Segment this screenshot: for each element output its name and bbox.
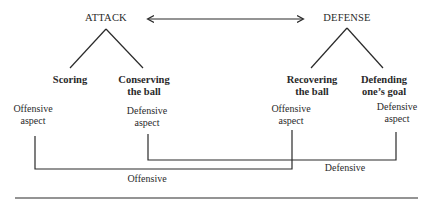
goal-defending-line1: Defending (361, 74, 407, 86)
aspect-recovering-line2: aspect (271, 115, 310, 127)
attack-branch-right (106, 29, 143, 68)
offensive-bracket (35, 130, 292, 169)
root-defense-label: DEFENSE (323, 12, 371, 24)
defensive-bracket (148, 132, 396, 160)
defense-branch-right (347, 28, 383, 68)
attack-branch-left (70, 29, 106, 68)
defense-branch-left (311, 28, 347, 68)
goal-conserving-ball: Conserving the ball (118, 74, 169, 98)
aspect-conserving-line2: aspect (127, 117, 168, 129)
goal-recovering-line1: Recovering (287, 74, 338, 86)
goal-conserving-line2: the ball (118, 86, 169, 98)
aspect-defending-line1: Defensive (377, 101, 418, 113)
goal-recovering-ball: Recovering the ball (287, 74, 338, 98)
aspect-conserving-line1: Defensive (127, 105, 168, 117)
aspect-defending: Defensive aspect (377, 101, 418, 125)
aspect-recovering-line1: Offensive (271, 103, 310, 115)
aspect-defending-line2: aspect (377, 113, 418, 125)
aspect-scoring-line1: Offensive (13, 103, 52, 115)
goal-recovering-line2: the ball (287, 86, 338, 98)
aspect-conserving: Defensive aspect (127, 105, 168, 129)
goal-scoring-line1: Scoring (53, 74, 87, 86)
attack-defense-diagram: ATTACK DEFENSE Scoring Conserving the ba… (0, 0, 430, 202)
bracket-defensive-label: Defensive (325, 162, 366, 174)
bracket-offensive-label: Offensive (127, 173, 166, 185)
aspect-scoring: Offensive aspect (13, 103, 52, 127)
aspect-recovering: Offensive aspect (271, 103, 310, 127)
goal-defending-line2: one’s goal (361, 86, 407, 98)
goal-conserving-line1: Conserving (118, 74, 169, 86)
aspect-scoring-line2: aspect (13, 115, 52, 127)
root-attack-label: ATTACK (85, 12, 127, 24)
goal-scoring: Scoring (53, 74, 87, 86)
goal-defending-goal: Defending one’s goal (361, 74, 407, 98)
